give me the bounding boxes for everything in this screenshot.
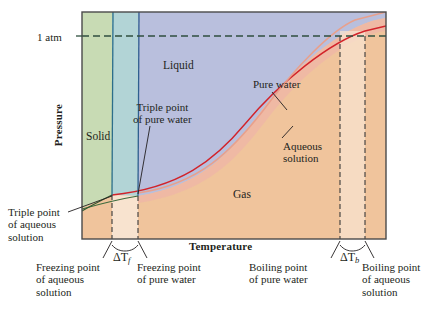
callout-label-boiling-point-aqueous-solution: Boiling point of aqueous solution [362, 261, 420, 298]
delta-tb-symbol: ΔT [340, 250, 355, 264]
x-axis-label: Temperature [189, 240, 252, 252]
delta-tb-subscript: b [355, 255, 359, 265]
delta-tf-label: ΔTf [113, 251, 130, 265]
leader-line-boiling-point-aqueous [365, 241, 374, 258]
 [112, 195, 138, 239]
region-label-liquid: Liquid [163, 59, 194, 72]
leader-line-freezing-point-aqueous [103, 241, 112, 258]
region-fill-delta-tb-strip [340, 31, 365, 239]
callout-label-aqueous-solution: Aqueous solution [283, 140, 322, 165]
callout-label-freezing-point-pure-water: Freezing point of pure water [137, 261, 201, 286]
callout-label-boiling-point-pure-water: Boiling point of pure water [249, 261, 308, 286]
delta-tb-label: ΔTb [340, 251, 359, 265]
delta-tf-symbol: ΔT [113, 250, 128, 264]
callout-label-freezing-point-aqueous-solution: Freezing point of aqueous solution [36, 261, 100, 298]
region-fill-solid [82, 12, 112, 208]
phase-diagram-figure: 1 atm Pressure Temperature Solid Liquid … [0, 0, 448, 322]
delta-tf-subscript: f [128, 255, 130, 265]
callout-label-pure-water: Pure water [253, 78, 300, 90]
leader-line-freezing-point-pure-water [138, 241, 147, 258]
y-axis-tick-label-1-atm: 1 atm [37, 31, 62, 43]
region-label-gas: Gas [233, 188, 251, 201]
callout-label-triple-point-pure-water: Triple point of pure water [133, 101, 192, 126]
plot-interior [82, 12, 386, 239]
region-label-solid: Solid [86, 130, 110, 143]
callout-label-triple-point-aqueous-solution: Triple point of aqueous solution [8, 206, 60, 243]
y-axis-label: Pressure [52, 104, 68, 146]
leader-line-boiling-point-pure-water [331, 241, 340, 258]
